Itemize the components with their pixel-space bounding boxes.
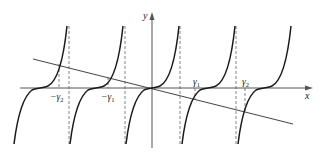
tan-branch-4 <box>182 26 235 144</box>
label-neg-gamma1: −γ1 <box>101 92 114 103</box>
y-axis-label: y <box>142 10 148 21</box>
x-axis-label: x <box>304 90 310 101</box>
label-gamma2: γ2 <box>242 77 249 88</box>
y-axis-arrow-icon <box>150 12 155 20</box>
tangent-line-intersection-diagram: x y −γ2 −γ1 γ1 γ2 <box>0 0 321 153</box>
tan-branch-2 <box>70 26 123 144</box>
label-neg-gamma2: −γ2 <box>50 92 63 103</box>
label-gamma1: γ1 <box>193 77 200 88</box>
y-axis <box>150 12 155 148</box>
